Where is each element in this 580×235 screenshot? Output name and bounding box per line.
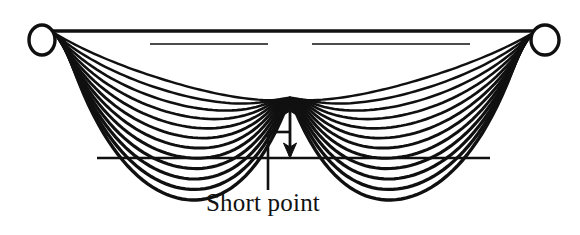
- drape-diagram: Short point: [0, 0, 580, 235]
- right-anchor-ellipse: [531, 25, 559, 55]
- short-point-label: Short point: [206, 189, 320, 216]
- figure-container: Short point: [0, 0, 580, 235]
- left-anchor-ellipse: [29, 25, 55, 55]
